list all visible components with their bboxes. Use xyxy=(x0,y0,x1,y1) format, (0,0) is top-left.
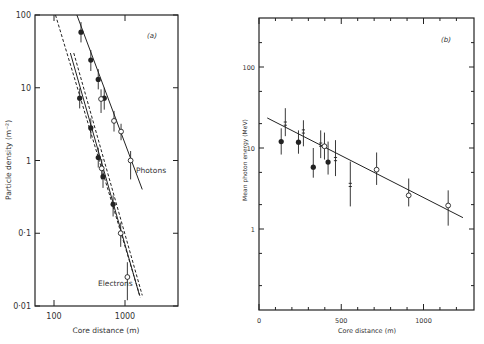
plot-area xyxy=(267,108,463,225)
fit-line xyxy=(267,118,463,218)
x-axis-label: Core distance (m) xyxy=(338,327,396,335)
data-point-filled xyxy=(325,159,330,164)
y-axis-label: Particle density (m⁻²) xyxy=(4,120,13,200)
y-tick-label: 10 xyxy=(21,84,31,93)
data-point-filled xyxy=(279,139,284,144)
chart-panel-a: 0·010·11101001001000Core distance (m)Par… xyxy=(4,11,178,335)
plot-frame xyxy=(259,18,474,310)
y-tick-label: 100 xyxy=(243,64,255,72)
y-tick-label: 1 xyxy=(251,226,255,234)
fit-line-dashed xyxy=(74,53,142,295)
x-tick-label: 1000 xyxy=(115,312,135,321)
data-point-open xyxy=(406,193,411,198)
data-point-filled xyxy=(78,30,83,35)
y-tick-label: 0·1 xyxy=(18,229,31,238)
data-point-filled xyxy=(88,125,93,130)
x-tick-label: 100 xyxy=(46,312,61,321)
data-point-open xyxy=(99,166,104,171)
annotation-label: Electrons xyxy=(98,279,133,288)
y-axis-label: Mean photon energy (MeV) xyxy=(241,119,249,201)
data-point-filled xyxy=(311,165,316,170)
data-point-filled xyxy=(100,174,105,179)
data-point-open xyxy=(99,97,104,102)
fit-line xyxy=(77,15,142,189)
annotation-label: Photons xyxy=(136,166,166,175)
plot-frame xyxy=(35,15,178,306)
data-point-open xyxy=(128,158,133,163)
data-point-open xyxy=(446,203,451,208)
x-tick-label: 500 xyxy=(335,317,347,325)
figure: 0·010·11101001001000Core distance (m)Par… xyxy=(0,0,484,344)
data-point-open xyxy=(119,129,124,134)
plot-area xyxy=(56,15,143,300)
data-point-filled xyxy=(88,57,93,62)
y-tick-label: 1 xyxy=(26,157,31,166)
x-tick-label: 0 xyxy=(257,317,261,325)
data-point-open xyxy=(112,119,117,124)
data-point-filled xyxy=(96,77,101,82)
x-tick-label: 1000 xyxy=(415,317,432,325)
data-point-filled xyxy=(296,140,301,145)
panel-label: (a) xyxy=(147,32,157,40)
data-point-filled xyxy=(96,155,101,160)
y-tick-label: 0·01 xyxy=(13,302,31,311)
data-point-filled xyxy=(111,202,116,207)
data-point-open xyxy=(374,167,379,172)
y-tick-label: 100 xyxy=(16,11,31,20)
data-point-filled xyxy=(77,96,82,101)
chart-panel-b: 11010005001000Core distance (m)Mean phot… xyxy=(241,18,474,335)
data-point-open xyxy=(118,231,123,236)
panel-label: (b) xyxy=(441,36,451,44)
data-point-open xyxy=(322,144,327,149)
x-axis-label: Core distance (m) xyxy=(72,326,139,335)
